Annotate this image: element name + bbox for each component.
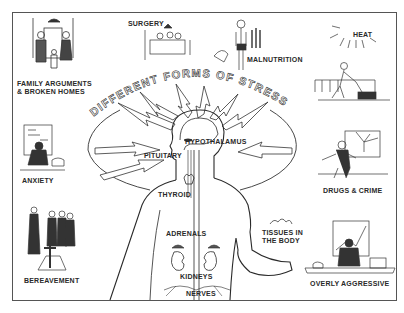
stressor-label-heat: HEAT [353,31,372,39]
bereavement-illustration [28,207,75,270]
stressor-label-bereavement: BEREAVEMENT [24,277,79,285]
family-label-line1: FAMILY ARGUMENTS [17,80,92,88]
body-label-adrenals: ADRENALS [166,230,207,238]
body-label-thyroid: THYROID [158,191,191,199]
tissues-label-line1: TISSUES IN [262,229,303,237]
drugs-crime-illustration [318,131,388,178]
body-label-tissues: TISSUES IN THE BODY [262,229,303,245]
stressor-label-malnutrition: MALNUTRITION [247,56,303,64]
family-label-line2: & BROKEN HOMES [17,88,92,96]
body-label-hypothalamus: HYPOTHALAMUS [185,138,247,146]
stressor-label-drugs-crime: DRUGS & CRIME [323,187,382,195]
body-label-kidneys: KIDNEYS [180,273,213,281]
body-label-pituitary: PITUITARY [144,152,182,160]
tissues-label-line2: THE BODY [262,237,303,245]
stressor-label-anxiety: ANXIETY [22,177,54,185]
stressor-label-surgery: SURGERY [128,20,164,28]
stress-diagram-artwork: DIFFERENT FORMS OF STRESS [0,0,404,313]
stressor-label-overly-aggressive: OVERLY AGGRESSIVE [310,280,389,288]
stressor-label-family: FAMILY ARGUMENTS & BROKEN HOMES [17,80,92,96]
family-illustration [33,18,73,68]
anxiety-illustration [20,125,65,170]
surgery-illustration [145,24,190,60]
body-label-nerves: NERVES [186,290,216,298]
aggressive-illustration [305,221,395,273]
